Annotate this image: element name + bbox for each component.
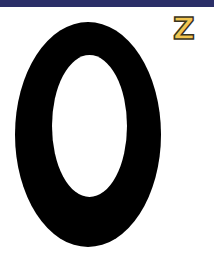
top-band: [0, 0, 214, 7]
zero-counter-hole: [52, 55, 127, 197]
large-zero-glyph: 0: [15, 22, 161, 247]
superscript-z: Z: [169, 14, 199, 44]
